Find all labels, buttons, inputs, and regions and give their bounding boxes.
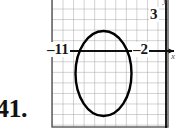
figure-page: 41. [0,0,177,134]
x-axis-name: x [171,51,175,61]
x-axis-label-right: –2 [132,42,149,57]
coordinate-graph: –11 –2 3 x y [52,0,168,128]
x-axis-label-left: –11 [46,42,70,57]
y-axis-name: y [163,0,167,5]
y-axis-label-top: 3 [149,7,159,22]
problem-number: 41. [0,96,27,122]
